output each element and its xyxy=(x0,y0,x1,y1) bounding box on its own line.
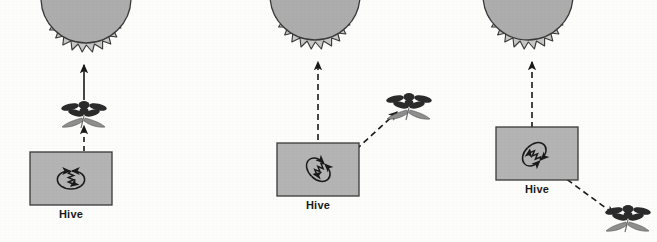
hive-label: Hive xyxy=(59,208,83,220)
hive-box xyxy=(277,143,359,196)
panel-3-graphics xyxy=(438,0,657,242)
panel-food-45-right-of-sun: Hive xyxy=(219,0,438,242)
panel-food-toward-sun: Hive xyxy=(0,0,219,242)
sun-icon xyxy=(270,0,360,49)
hive-label: Hive xyxy=(306,199,330,211)
flower-icon xyxy=(604,205,651,232)
flower-icon xyxy=(60,101,107,128)
figure-canvas: Hive xyxy=(0,0,657,242)
sun-icon xyxy=(41,0,131,52)
sun-icon xyxy=(483,0,573,49)
hive-label: Hive xyxy=(525,183,549,195)
panel-food-135-right-of-sun: Hive xyxy=(438,0,657,242)
panel-1-graphics xyxy=(0,0,219,242)
flower-icon xyxy=(385,93,432,120)
